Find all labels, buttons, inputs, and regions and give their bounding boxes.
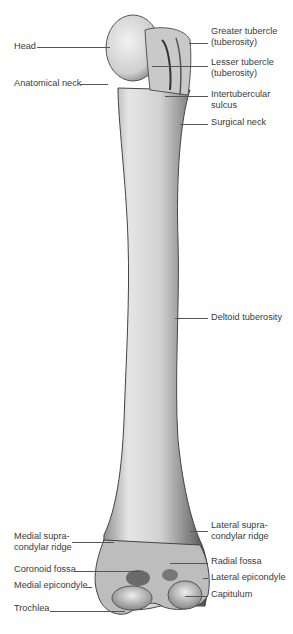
label-surgical-neck: Surgical neck: [211, 117, 266, 128]
label-lateral-epicondyle: Lateral epicondyle: [211, 572, 286, 583]
label-deltoid-tuberosity: Deltoid tuberosity: [211, 312, 282, 323]
label-lateral-supracondylar-ridge: Lateral supra- condylar ridge: [211, 520, 269, 542]
label-medial-epicondyle: Medial epicondyle: [14, 580, 88, 591]
label-radial-fossa: Radial fossa: [211, 556, 262, 567]
leader-line-medial-epicondyle: [84, 587, 92, 588]
label-trochlea: Trochlea: [14, 603, 49, 614]
leader-line-radial-fossa: [170, 563, 208, 564]
label-coronoid-fossa: Coronoid fossa: [14, 564, 76, 575]
leader-line-lateral-supracondylar-ridge: [190, 531, 208, 532]
label-capitulum: Capitulum: [211, 589, 252, 600]
leader-line-trochlea: [50, 611, 125, 612]
leader-line-anatomical-neck: [80, 84, 108, 85]
leader-line-greater-tubercle: [189, 43, 208, 44]
label-anatomical-neck: Anatomical neck: [14, 78, 81, 89]
leader-line-coronoid-fossa: [74, 571, 140, 572]
leader-line-head: [37, 47, 110, 48]
label-intertubercular-sulcus: Intertubercular sulcus: [211, 89, 270, 111]
leader-line-deltoid-tuberosity: [175, 318, 208, 319]
label-lesser-tubercle: Lesser tubercle (tuberosity): [211, 57, 274, 79]
leader-line-capitulum: [185, 596, 208, 597]
label-medial-supracondylar-ridge: Medial supra- condylar ridge: [14, 531, 72, 553]
leader-line-lateral-epicondyle: [203, 578, 208, 579]
label-head: Head: [14, 41, 36, 52]
leader-line-lesser-tubercle: [152, 66, 208, 67]
leader-line-intertubercular-sulcus: [165, 96, 208, 97]
label-greater-tubercle: Greater tubercle (tuberosity): [211, 26, 277, 48]
leader-line-medial-supracondylar-ridge: [72, 542, 114, 543]
leader-line-surgical-neck: [180, 124, 208, 125]
